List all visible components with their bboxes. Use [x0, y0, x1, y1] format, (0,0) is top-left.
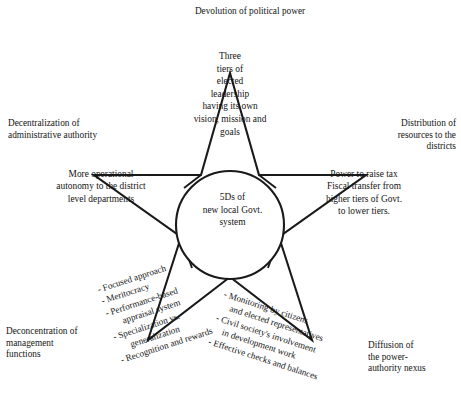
center-hub-text: 5Ds of new local Govt. system — [185, 191, 280, 229]
arm-text-right: Power to raise tax Fiscal transfer from … — [288, 168, 440, 218]
outer-label-devolution: Devolution of political power — [150, 6, 350, 18]
outer-label-decentralization: Decentralization of administrative autho… — [8, 118, 148, 141]
star-diagram: Devolution of political power Decentrali… — [0, 0, 461, 420]
arm-text-left: More operational autonomy to the distric… — [26, 168, 176, 205]
outer-label-distribution: Distribution of resources to the distric… — [330, 118, 456, 153]
arm-text-top: Three tiers of elected leadership having… — [150, 50, 310, 138]
